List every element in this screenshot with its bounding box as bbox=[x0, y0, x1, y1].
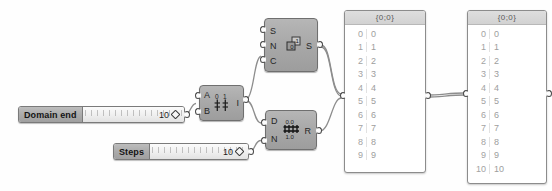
panel-row-value: 6 bbox=[367, 110, 376, 120]
panel-row-index: 5 bbox=[345, 96, 367, 106]
port-grip-series-n[interactable] bbox=[260, 41, 266, 48]
node-interval-input-a[interactable]: A bbox=[204, 91, 210, 100]
range-icon-top-label: 0.0 bbox=[286, 119, 295, 125]
panel-row: 66 bbox=[345, 108, 425, 122]
panel-row: 00 bbox=[345, 27, 425, 41]
node-series-output-s[interactable]: S bbox=[306, 42, 312, 51]
panel-row-index: 4 bbox=[468, 83, 490, 93]
panel-row-value: 7 bbox=[490, 123, 499, 133]
node-range-input-n[interactable]: N bbox=[271, 135, 278, 144]
wire-interval-to-series-n bbox=[247, 56, 261, 99]
panel-row-value: 10 bbox=[490, 164, 504, 174]
slider-domain-end[interactable]: Domain end 10 bbox=[18, 106, 185, 123]
panel-row-index: 8 bbox=[468, 137, 490, 147]
panel-row-index: 8 bbox=[345, 137, 367, 147]
port-grip-range-d[interactable] bbox=[261, 119, 267, 126]
node-range-input-d[interactable]: D bbox=[271, 117, 278, 126]
svg-text:1: 1 bbox=[223, 93, 227, 100]
panel-row-value: 8 bbox=[490, 137, 499, 147]
panel-row: 88 bbox=[345, 135, 425, 149]
panel-row-value: 3 bbox=[490, 69, 499, 79]
panel-row-value: 6 bbox=[490, 110, 499, 120]
port-grip-interval-out[interactable] bbox=[243, 96, 249, 103]
port-grip-steps-out[interactable] bbox=[248, 148, 254, 155]
port-grip-panel-range-in[interactable] bbox=[463, 90, 469, 97]
panel-row: 66 bbox=[468, 108, 546, 122]
port-grip-series-out[interactable] bbox=[317, 41, 323, 48]
panel-range[interactable]: {0;0} 001122334455667788991010 bbox=[467, 10, 547, 184]
port-grip-panel-series-out[interactable] bbox=[425, 92, 431, 99]
panel-row-index: 0 bbox=[345, 29, 367, 39]
series-icon: 0 1 bbox=[285, 36, 305, 56]
node-series[interactable]: S N C S 0 1 bbox=[264, 18, 318, 72]
panel-row-index: 6 bbox=[468, 110, 490, 120]
panel-row-index: 3 bbox=[345, 69, 367, 79]
node-interval-input-b[interactable]: B bbox=[204, 107, 210, 116]
panel-row-value: 8 bbox=[367, 137, 376, 147]
slider-steps[interactable]: Steps 10 bbox=[113, 143, 249, 160]
node-series-input-n[interactable]: N bbox=[270, 42, 277, 51]
panel-row-value: 0 bbox=[367, 29, 376, 39]
interval-icon: 0 1 bbox=[214, 92, 232, 114]
panel-row: 22 bbox=[468, 54, 546, 68]
panel-row: 44 bbox=[345, 81, 425, 95]
node-series-input-s[interactable]: S bbox=[270, 27, 276, 36]
slider-domain-end-track[interactable]: 10 bbox=[83, 107, 184, 122]
panel-row-index: 10 bbox=[468, 164, 490, 174]
panel-row-value: 5 bbox=[490, 96, 499, 106]
panel-row: 88 bbox=[468, 135, 546, 149]
slider-domain-end-label: Domain end bbox=[19, 107, 83, 122]
panel-row: 11 bbox=[345, 41, 425, 55]
panel-row: 1010 bbox=[468, 162, 546, 176]
slider-steps-track[interactable]: 10 bbox=[150, 144, 248, 159]
wire-series-to-panel1-b bbox=[321, 47, 341, 96]
panel-range-rows: 001122334455667788991010 bbox=[468, 25, 546, 176]
node-range[interactable]: D N R 0.0 1.0 bbox=[265, 110, 317, 150]
panel-row: 77 bbox=[345, 122, 425, 136]
panel-range-header: {0;0} bbox=[468, 11, 546, 25]
port-grip-panel-range-out[interactable] bbox=[546, 90, 552, 97]
port-grip-range-out[interactable] bbox=[316, 127, 322, 134]
port-grip-series-c[interactable] bbox=[260, 56, 266, 63]
panel-series[interactable]: {0;0} 00112233445566778899 bbox=[344, 10, 426, 173]
port-grip-series-s[interactable] bbox=[260, 26, 266, 33]
node-interval-output-i[interactable]: I bbox=[236, 99, 239, 108]
port-grip-interval-a[interactable] bbox=[195, 92, 201, 99]
port-grip-interval-b[interactable] bbox=[195, 108, 201, 115]
range-icon-bottom-label: 1.0 bbox=[286, 134, 295, 140]
panel-row-index: 3 bbox=[468, 69, 490, 79]
panel-row: 33 bbox=[468, 68, 546, 82]
panel-row-index: 4 bbox=[345, 83, 367, 93]
panel-series-rows: 00112233445566778899 bbox=[345, 25, 425, 162]
node-interval[interactable]: A B I 0 1 bbox=[199, 85, 244, 121]
panel-row-value: 3 bbox=[367, 69, 376, 79]
panel-row-value: 1 bbox=[367, 42, 376, 52]
port-grip-panel-series-in[interactable] bbox=[340, 92, 346, 99]
panel-row-value: 5 bbox=[367, 96, 376, 106]
port-grip-range-n[interactable] bbox=[261, 137, 267, 144]
panel-row: 99 bbox=[345, 149, 425, 163]
slider-steps-label: Steps bbox=[114, 144, 150, 159]
panel-row: 77 bbox=[468, 122, 546, 136]
panel-series-header: {0;0} bbox=[345, 11, 425, 25]
port-grip-domain-end-out[interactable] bbox=[184, 111, 190, 118]
panel-row: 44 bbox=[468, 81, 546, 95]
wire-range-to-panel1 bbox=[320, 98, 341, 131]
panel-row-value: 2 bbox=[490, 56, 499, 66]
range-icon: 0.0 1.0 bbox=[283, 116, 307, 144]
panel-row: 99 bbox=[468, 149, 546, 163]
panel-row-index: 9 bbox=[345, 150, 367, 160]
panel-row: 22 bbox=[345, 54, 425, 68]
panel-row-index: 0 bbox=[468, 29, 490, 39]
panel-row-value: 9 bbox=[367, 150, 376, 160]
panel-row-value: 0 bbox=[490, 29, 499, 39]
panel-row: 55 bbox=[345, 95, 425, 109]
panel-row-value: 7 bbox=[367, 123, 376, 133]
panel-row: 33 bbox=[345, 68, 425, 82]
panel-row-index: 2 bbox=[468, 56, 490, 66]
panel-row-value: 9 bbox=[490, 150, 499, 160]
panel-row-value: 2 bbox=[367, 56, 376, 66]
node-series-input-c[interactable]: C bbox=[270, 57, 277, 66]
panel-row: 55 bbox=[468, 95, 546, 109]
